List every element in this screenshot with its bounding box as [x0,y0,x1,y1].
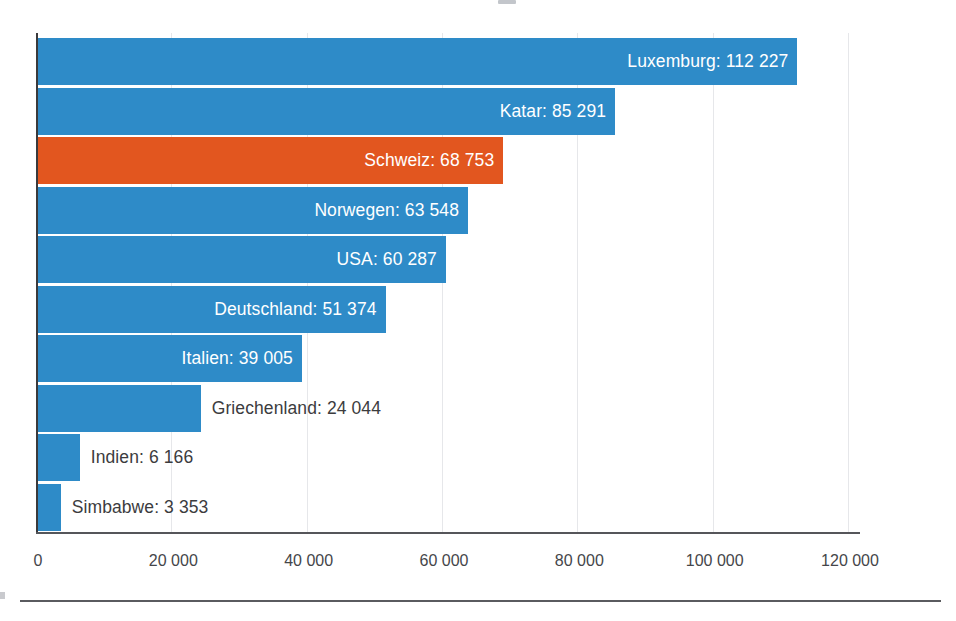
bar-schweiz[interactable]: Schweiz: 68 753 [38,137,503,184]
bar-data-label: Luxemburg: 112 227 [627,51,797,72]
bar-row[interactable]: USA: 60 287 [38,236,860,283]
bar-data-label: Griechenland: 24 044 [201,385,381,432]
bar-simbabwe[interactable] [38,484,61,531]
left-edge-mark [0,592,5,599]
x-tick-label-0: 0 [34,552,43,570]
bar-usa[interactable]: USA: 60 287 [38,236,446,283]
bar-row[interactable]: Simbabwe: 3 353 [38,484,860,531]
x-tick-label-120000: 120 000 [821,552,879,570]
bar-row[interactable]: Italien: 39 005 [38,335,860,382]
bar-deutschland[interactable]: Deutschland: 51 374 [38,286,386,333]
bar-data-label: Indien: 6 166 [80,434,194,481]
bar-series: Luxemburg: 112 227Katar: 85 291Schweiz: … [38,33,860,532]
bar-row[interactable]: Norwegen: 63 548 [38,187,860,234]
bar-row[interactable]: Luxemburg: 112 227 [38,38,860,85]
bar-data-label: Deutschland: 51 374 [214,299,385,320]
cropped-title-remnant [498,0,516,4]
bar-data-label: Katar: 85 291 [500,101,615,122]
bar-row[interactable]: Deutschland: 51 374 [38,286,860,333]
bar-row[interactable]: Indien: 6 166 [38,434,860,481]
bar-italien[interactable]: Italien: 39 005 [38,335,302,382]
bar-indien[interactable] [38,434,80,481]
x-tick-label-40000: 40 000 [284,552,333,570]
bar-griechenland[interactable] [38,385,201,432]
bar-row[interactable]: Griechenland: 24 044 [38,385,860,432]
bar-katar[interactable]: Katar: 85 291 [38,88,615,135]
x-tick-label-80000: 80 000 [555,552,604,570]
x-tick-label-20000: 20 000 [149,552,198,570]
chart-page: Luxemburg: 112 227Katar: 85 291Schweiz: … [0,0,956,621]
bar-luxemburg[interactable]: Luxemburg: 112 227 [38,38,797,85]
bar-norwegen[interactable]: Norwegen: 63 548 [38,187,468,234]
x-tick-label-100000: 100 000 [686,552,744,570]
bar-row[interactable]: Schweiz: 68 753 [38,137,860,184]
bar-data-label: USA: 60 287 [337,249,446,270]
bar-row[interactable]: Katar: 85 291 [38,88,860,135]
bottom-divider-rule [20,600,941,602]
plot-area: Luxemburg: 112 227Katar: 85 291Schweiz: … [36,33,860,533]
bar-data-label: Simbabwe: 3 353 [61,484,209,531]
x-axis-baseline [36,532,860,534]
x-axis-tick-labels: 020 00040 00060 00080 000100 000120 000 [36,552,860,578]
x-tick-label-60000: 60 000 [420,552,469,570]
bar-data-label: Italien: 39 005 [181,348,301,369]
bar-data-label: Schweiz: 68 753 [364,150,503,171]
bar-data-label: Norwegen: 63 548 [314,200,468,221]
